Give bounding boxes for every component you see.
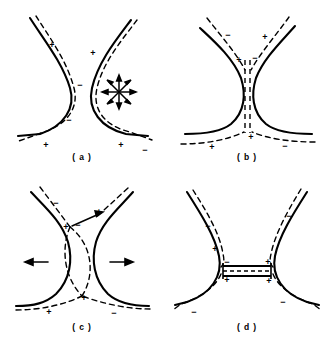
sign-minus: − <box>286 211 291 221</box>
panel-a: + + − − + + − ( a ) <box>0 0 164 170</box>
separatrix-left-a <box>18 18 72 136</box>
panel-b-label: ( b ) <box>165 152 329 162</box>
sign-minus: − <box>224 257 229 267</box>
sign-minus: − <box>205 221 210 231</box>
current-sheet-vertical-b <box>245 60 250 133</box>
sign-group-c: − + + − + + − <box>46 198 116 318</box>
sign-minus: − <box>191 307 196 317</box>
sign-plus: + <box>248 132 253 142</box>
sign-plus: + <box>209 142 214 152</box>
sign-minus: − <box>282 141 287 151</box>
sign-plus: + <box>236 55 241 65</box>
sign-minus: − <box>66 115 71 125</box>
sign-minus: − <box>280 297 285 307</box>
sign-plus: + <box>90 48 95 58</box>
separatrix-left-b <box>185 28 244 134</box>
solid-separatrix-group-d <box>175 192 319 305</box>
sign-minus: − <box>77 80 82 90</box>
solid-separatrix-group-a <box>18 18 148 136</box>
sign-plus: + <box>63 222 68 232</box>
sign-plus: + <box>49 40 54 50</box>
panel-d: − − + − + + + − − ( d ) <box>165 170 329 340</box>
sign-plus: + <box>262 32 267 42</box>
sign-minus: − <box>111 308 116 318</box>
sign-minus: − <box>53 198 58 208</box>
sign-minus: − <box>252 53 257 63</box>
sign-group-d: − − + − + + + − − <box>191 211 291 317</box>
fieldline-right-a <box>96 20 152 140</box>
dashed-fieldline-group-b <box>181 17 315 144</box>
sign-plus: + <box>81 293 86 303</box>
radial-arrow-star-a <box>102 75 136 109</box>
solid-separatrix-group-b <box>185 26 312 134</box>
outflow-arrow-left-c <box>25 259 48 265</box>
panel-c-label: ( c ) <box>0 322 164 332</box>
sign-plus: + <box>43 140 48 150</box>
sign-minus: − <box>75 220 80 230</box>
sign-plus: + <box>46 307 51 317</box>
sign-plus: + <box>96 207 101 217</box>
dashed-fieldline-group-d <box>173 189 321 310</box>
sign-minus: − <box>225 30 230 40</box>
outflow-arrow-right-c <box>110 259 133 265</box>
sign-group-a: + + − − + + − <box>43 40 147 155</box>
panel-d-label: ( d ) <box>165 322 329 332</box>
solid-separatrix-group-c <box>16 192 149 306</box>
dashed-fieldline-group-c <box>16 187 150 310</box>
separatrix-right-d <box>274 192 319 305</box>
separatrix-right-c <box>94 192 149 306</box>
sign-plus: + <box>212 244 217 254</box>
sign-plus: + <box>265 257 270 267</box>
panel-b: − + + − + + − ( b ) <box>165 0 329 170</box>
sign-plus: + <box>266 276 271 286</box>
panel-a-drawing: + + − − + + − <box>0 0 164 170</box>
separatrix-right-b <box>253 26 312 134</box>
panel-c: − + + − + + − ( c ) <box>0 170 164 340</box>
panel-b-drawing: − + + − + + − <box>165 0 329 170</box>
sign-plus: + <box>224 275 229 285</box>
dashed-fieldline-group-a <box>16 16 152 142</box>
figure-container: + + − − + + − ( a ) <box>0 0 329 340</box>
fieldline-x-right-c <box>70 227 90 296</box>
panel-d-drawing: − − + − + + + − − <box>165 170 329 340</box>
current-sheet-horizontal-d <box>223 263 271 279</box>
panel-c-drawing: − + + − + + − <box>0 170 164 340</box>
sign-plus: + <box>118 140 123 150</box>
panel-a-label: ( a ) <box>0 152 164 162</box>
separatrix-left-c <box>16 192 70 306</box>
